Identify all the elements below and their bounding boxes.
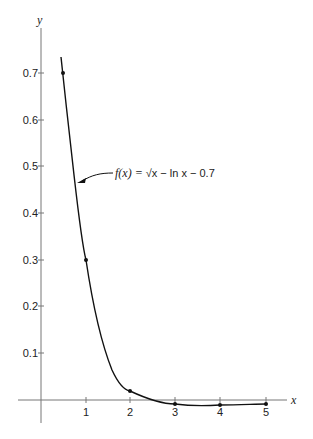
x-tick-label: 1 bbox=[83, 406, 89, 418]
x-tick-label: 4 bbox=[217, 406, 223, 418]
y-tick-label: 0.1 bbox=[23, 347, 38, 359]
function-plot: y x 0.1 0.2 0.3 0.4 0.5 0.6 0.7 1 2 3 4 … bbox=[0, 0, 313, 439]
y-tick-label: 0.7 bbox=[23, 67, 38, 79]
y-tick-label: 0.2 bbox=[23, 300, 38, 312]
x-tick-label: 5 bbox=[263, 406, 269, 418]
annotation-rest: − ln x − 0.7 bbox=[157, 167, 214, 179]
y-tick-label: 0.6 bbox=[23, 114, 38, 126]
x-tick-label: 2 bbox=[127, 406, 133, 418]
data-point bbox=[218, 403, 222, 407]
x-tick-labels: 1 2 3 4 5 bbox=[83, 406, 269, 418]
y-axis-label: y bbox=[36, 13, 43, 27]
annotation-leader-line bbox=[82, 173, 113, 181]
function-annotation: f(x) = √x − ln x − 0.7 bbox=[115, 166, 215, 180]
y-tick-labels: 0.1 0.2 0.3 0.4 0.5 0.6 0.7 bbox=[23, 67, 38, 359]
arrow-head-icon bbox=[77, 178, 86, 183]
data-points bbox=[61, 71, 268, 407]
y-tick-label: 0.4 bbox=[23, 207, 38, 219]
data-point bbox=[173, 402, 177, 406]
x-tick-label: 3 bbox=[172, 406, 178, 418]
data-point bbox=[264, 402, 268, 406]
annotation-prefix: f(x) = bbox=[115, 166, 146, 180]
y-tick-label: 0.3 bbox=[23, 254, 38, 266]
annotation-sqrt: √x bbox=[146, 167, 158, 179]
function-curve bbox=[61, 57, 266, 406]
y-tick-label: 0.5 bbox=[23, 160, 38, 172]
data-point bbox=[61, 71, 65, 75]
data-point bbox=[84, 258, 88, 262]
data-point bbox=[128, 389, 132, 393]
x-axis-label: x bbox=[290, 393, 297, 407]
